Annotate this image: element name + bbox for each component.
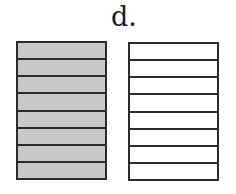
fraction-strip — [18, 110, 105, 127]
fraction-strip — [18, 92, 105, 109]
fraction-strip — [130, 93, 217, 110]
fraction-strip — [18, 161, 105, 178]
fraction-strip — [18, 127, 105, 144]
fraction-strip — [18, 144, 105, 161]
fraction-strip — [18, 43, 105, 58]
fraction-strip — [130, 162, 217, 179]
fraction-box-left — [16, 41, 107, 180]
fraction-strip — [130, 111, 217, 128]
fraction-strip — [130, 128, 217, 145]
fraction-strip — [130, 44, 217, 59]
fraction-strip — [130, 59, 217, 76]
fraction-strip — [130, 145, 217, 162]
problem-label: d. — [0, 2, 236, 32]
fraction-box-right — [128, 42, 219, 181]
fraction-strip — [18, 75, 105, 92]
fraction-strip — [130, 76, 217, 93]
fraction-strip — [18, 58, 105, 75]
